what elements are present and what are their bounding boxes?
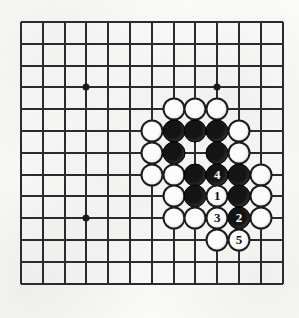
stone-c7r8	[162, 185, 185, 208]
stone-c8r5	[184, 120, 207, 143]
stone-c8r7	[184, 163, 207, 186]
stone-c9r4	[206, 98, 229, 121]
numbered-stone-2: 2	[228, 207, 251, 230]
stone-c9r5	[206, 120, 229, 143]
stone-c10r6	[228, 141, 251, 164]
stone-c6r5	[140, 120, 163, 143]
stone-c10r7	[228, 163, 251, 186]
stone-c6r7	[140, 163, 163, 186]
stone-c8r8	[184, 185, 207, 208]
stone-c7r6	[162, 141, 185, 164]
board-stones: 41325	[0, 0, 299, 318]
stone-c8r9	[184, 207, 207, 230]
numbered-stone-5: 5	[228, 229, 251, 252]
stone-c10r5	[228, 120, 251, 143]
stone-number-label: 2	[236, 211, 243, 224]
stone-c7r7	[162, 163, 185, 186]
stone-number-label: 4	[214, 168, 221, 181]
stone-number-label: 5	[236, 233, 243, 246]
stone-c7r5	[162, 120, 185, 143]
stone-number-label: 3	[214, 211, 221, 224]
stone-c6r6	[140, 141, 163, 164]
stone-c8r4	[184, 98, 207, 121]
stone-number-label: 1	[214, 189, 221, 202]
go-board-figure: 41325	[0, 0, 299, 318]
stone-c11r9	[249, 207, 272, 230]
stone-c9r10	[206, 229, 229, 252]
stone-c10r8	[228, 185, 251, 208]
stone-c11r7	[249, 163, 272, 186]
numbered-stone-4: 4	[206, 163, 229, 186]
numbered-stone-1: 1	[206, 185, 229, 208]
stone-c9r6	[206, 141, 229, 164]
stone-c7r9	[162, 207, 185, 230]
numbered-stone-3: 3	[206, 207, 229, 230]
stone-c11r8	[249, 185, 272, 208]
stone-c7r4	[162, 98, 185, 121]
